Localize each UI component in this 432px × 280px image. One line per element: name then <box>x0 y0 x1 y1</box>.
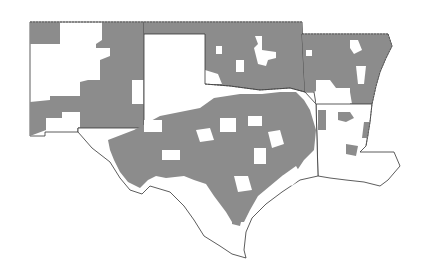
state-louisiana <box>316 104 400 186</box>
choropleth-map <box>0 0 432 280</box>
state-new-mexico <box>30 22 144 136</box>
state-arkansas <box>302 34 392 104</box>
